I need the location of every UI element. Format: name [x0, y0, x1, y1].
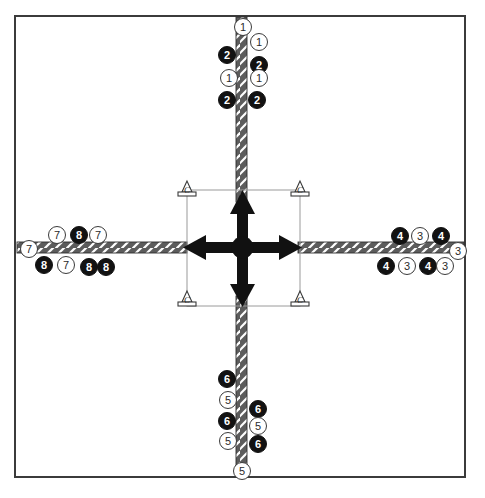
support-label-top-right: C — [294, 186, 306, 195]
approach-marker-west-7: 7 — [57, 256, 75, 274]
road-north — [236, 17, 247, 202]
road-west — [17, 242, 187, 253]
approach-marker-south-5: 5 — [219, 432, 237, 450]
approach-marker-west-8: 8 — [80, 258, 98, 276]
approach-marker-north-2: 2 — [218, 46, 236, 64]
approach-marker-north-1: 1 — [234, 18, 252, 36]
approach-marker-south-6: 6 — [249, 435, 267, 453]
approach-marker-east-3: 3 — [449, 242, 467, 260]
approach-marker-south-5: 5 — [249, 417, 267, 435]
support-label-bottom-right: C — [294, 296, 306, 305]
approach-marker-west-7: 7 — [20, 240, 38, 258]
approach-marker-west-8: 8 — [70, 226, 88, 244]
approach-marker-west-7: 7 — [48, 226, 66, 244]
approach-marker-east-4: 4 — [432, 227, 450, 245]
approach-marker-north-2: 2 — [218, 91, 236, 109]
approach-marker-west-8: 8 — [35, 256, 53, 274]
approach-marker-south-6: 6 — [218, 370, 236, 388]
approach-marker-north-1: 1 — [250, 69, 268, 87]
support-label-bottom-left: C — [181, 296, 193, 305]
approach-marker-north-2: 2 — [248, 91, 266, 109]
intersection-diagram: C C C C 11221122656655657877878843434343 — [0, 0, 485, 498]
approach-marker-west-8: 8 — [97, 258, 115, 276]
approach-marker-south-5: 5 — [233, 462, 251, 480]
approach-marker-west-7: 7 — [89, 226, 107, 244]
approach-marker-south-5: 5 — [219, 391, 237, 409]
diagram-canvas — [0, 0, 485, 498]
road-south — [236, 296, 247, 474]
approach-marker-east-3: 3 — [436, 257, 454, 275]
support-label-top-left: C — [181, 186, 193, 195]
approach-marker-east-3: 3 — [411, 227, 429, 245]
approach-marker-north-1: 1 — [250, 33, 268, 51]
approach-marker-south-6: 6 — [218, 412, 236, 430]
approach-marker-east-3: 3 — [398, 257, 416, 275]
approach-marker-east-4: 4 — [419, 257, 437, 275]
approach-marker-east-4: 4 — [377, 257, 395, 275]
center-node — [232, 237, 254, 259]
approach-marker-south-6: 6 — [249, 400, 267, 418]
approach-marker-east-4: 4 — [391, 227, 409, 245]
approach-marker-north-1: 1 — [220, 69, 238, 87]
